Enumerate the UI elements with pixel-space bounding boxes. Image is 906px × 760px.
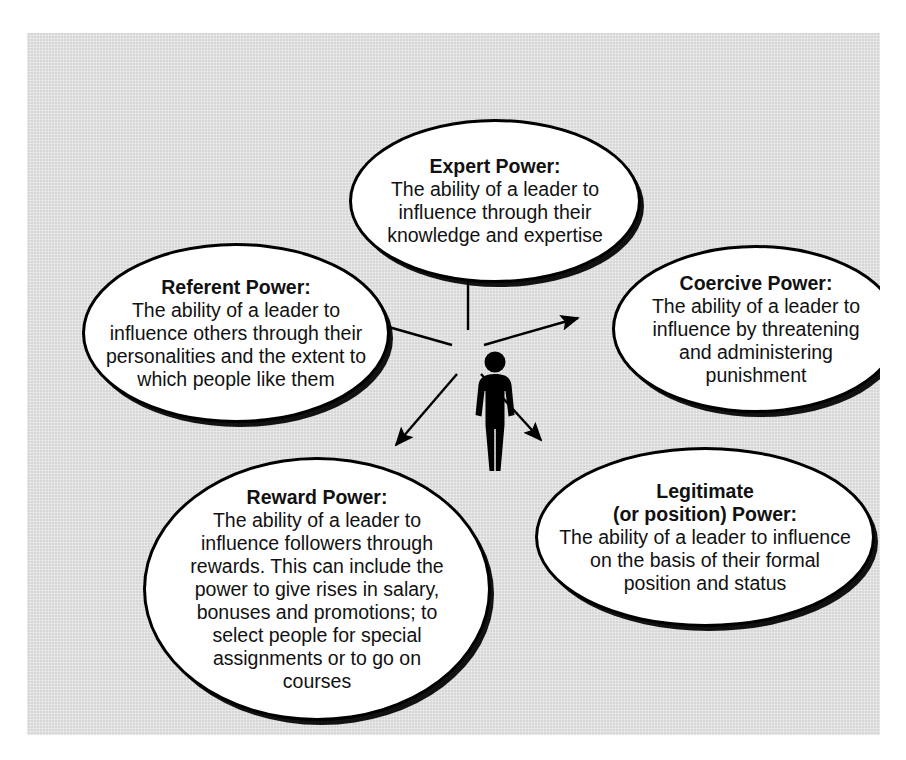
node-reward-content: Reward Power: The ability of a leader to… xyxy=(146,486,488,693)
node-legitimate-title-line2: (or position) Power: xyxy=(554,503,856,526)
node-legitimate-power[interactable]: Legitimate (or position) Power: The abil… xyxy=(535,447,875,627)
node-coercive-body: The ability of a leader to influence by … xyxy=(635,295,877,387)
person-silhouette-icon xyxy=(473,351,517,473)
node-reward-power[interactable]: Reward Power: The ability of a leader to… xyxy=(143,457,491,721)
node-referent-body: The ability of a leader to influence oth… xyxy=(97,299,375,391)
node-reward-title: Reward Power: xyxy=(180,486,454,509)
arrow-to-coercive xyxy=(484,318,578,345)
node-referent-power[interactable]: Referent Power: The ability of a leader … xyxy=(82,243,390,423)
node-legitimate-body: The ability of a leader to influence on … xyxy=(554,526,856,595)
node-coercive-power[interactable]: Coercive Power: The ability of a leader … xyxy=(612,245,880,413)
arrow-to-reward xyxy=(396,374,457,445)
diagram-panel: Expert Power: The ability of a leader to… xyxy=(27,33,880,735)
node-legitimate-content: Legitimate (or position) Power: The abil… xyxy=(538,480,872,595)
power-types-diagram: Expert Power: The ability of a leader to… xyxy=(0,0,906,760)
node-expert-body: The ability of a leader to influence thr… xyxy=(382,178,608,247)
node-expert-power[interactable]: Expert Power: The ability of a leader to… xyxy=(349,119,641,283)
node-referent-content: Referent Power: The ability of a leader … xyxy=(85,276,387,391)
node-reward-body: The ability of a leader to influence fol… xyxy=(180,509,454,693)
node-expert-title: Expert Power: xyxy=(382,155,608,178)
node-referent-title: Referent Power: xyxy=(97,276,375,299)
node-legitimate-title-line1: Legitimate xyxy=(554,480,856,503)
node-coercive-title: Coercive Power: xyxy=(635,272,877,295)
node-expert-content: Expert Power: The ability of a leader to… xyxy=(352,155,638,247)
node-coercive-content: Coercive Power: The ability of a leader … xyxy=(615,272,880,387)
